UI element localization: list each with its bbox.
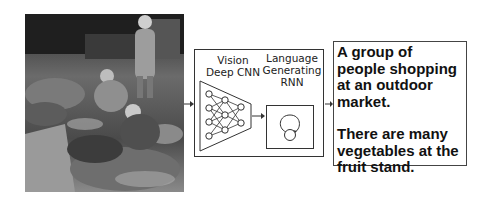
rnn-box [266,105,314,149]
language-label: Language [259,52,325,64]
vision-label: Vision [203,54,263,66]
arrow-cnn-to-rnn [252,112,266,120]
deep-cnn-label: Deep CNN [203,66,263,78]
caption-1: A group of people shopping at an outdoor… [337,44,463,110]
language-rnn-label: Language Generating RNN [259,52,325,88]
caption-2: There are many vegetables at the fruit s… [337,126,463,176]
rnn-label: RNN [259,76,325,88]
vision-cnn-label: Vision Deep CNN [203,54,263,78]
recurrent-loop-icon [267,106,313,148]
caption-output-box: A group of people shopping at an outdoor… [333,41,467,166]
model-box: Vision Deep CNN Language Generating RNN [194,49,324,157]
input-photo [25,14,184,192]
generating-label: Generating [259,64,325,76]
